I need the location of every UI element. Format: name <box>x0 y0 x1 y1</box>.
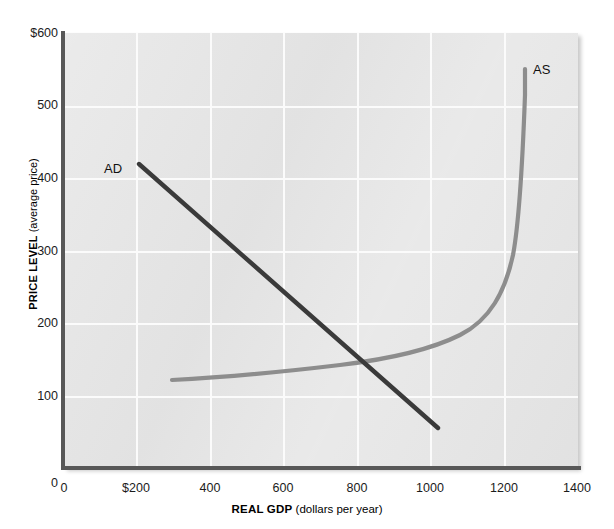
x-tick-200: $200 <box>101 481 171 495</box>
x-axis-title: REAL GDP (dollars per year) <box>0 503 614 515</box>
x-tick-1400: 1400 <box>542 481 612 495</box>
x-tick-800: 800 <box>322 481 392 495</box>
y-tick-100: 100 <box>2 389 58 403</box>
x-axis-ticks: 0 $200 400 600 800 1000 1200 1400 <box>0 481 614 501</box>
x-axis-title-rest: (dollars per year) <box>296 503 383 515</box>
x-tick-1200: 1200 <box>469 481 539 495</box>
y-axis-title: PRICE LEVEL (average price) <box>27 139 39 329</box>
as-curve <box>172 69 525 380</box>
x-tick-1000: 1000 <box>395 481 465 495</box>
x-axis-title-bold: REAL GDP <box>232 503 293 515</box>
y-tick-500: 500 <box>2 98 58 112</box>
y-axis-title-bold: PRICE LEVEL <box>27 235 39 309</box>
x-tick-400: 400 <box>175 481 245 495</box>
y-tick-600: $600 <box>2 26 58 40</box>
figure-aggregate-demand-supply: AD AS $600 500 400 300 200 100 0 0 $200 … <box>0 0 614 529</box>
curves-layer <box>0 0 614 529</box>
x-tick-600: 600 <box>248 481 318 495</box>
y-axis-title-rest: (average price) <box>27 158 39 232</box>
ad-curve-label: AD <box>104 161 122 176</box>
x-tick-0: 0 <box>29 481 99 495</box>
as-curve-label: AS <box>533 62 550 77</box>
ad-curve <box>139 164 438 428</box>
